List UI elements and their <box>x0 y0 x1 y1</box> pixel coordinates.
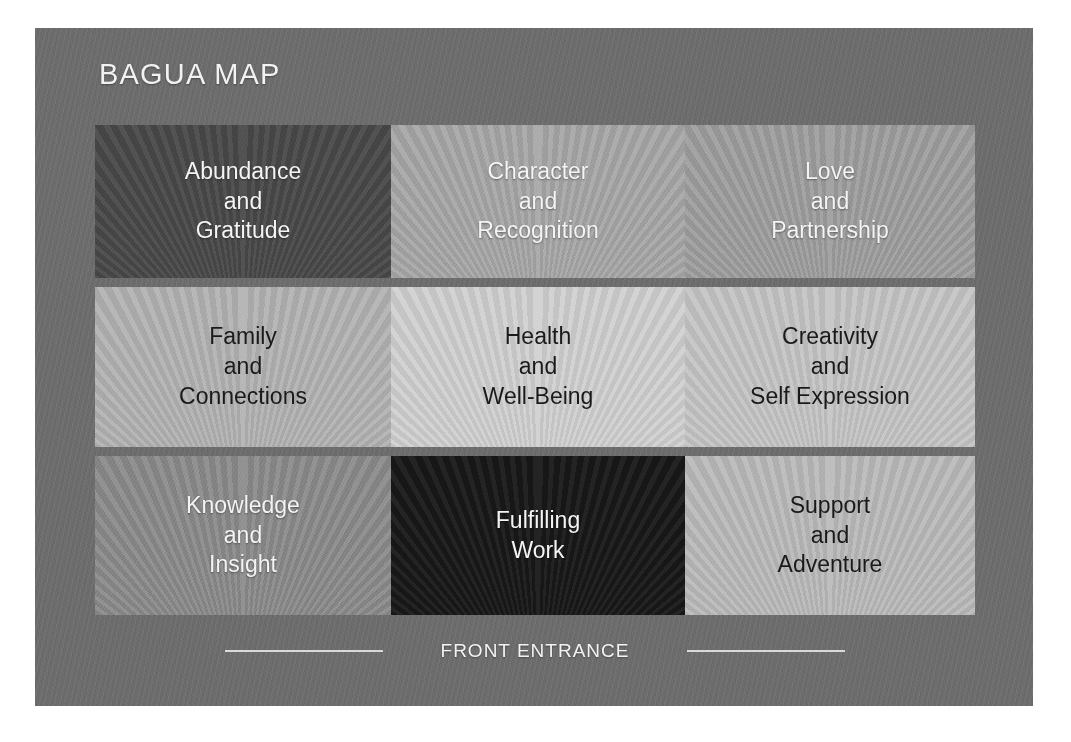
bagua-cell-line: Adventure <box>778 550 883 580</box>
bagua-cell-line: Health <box>483 322 594 352</box>
bagua-cell-line: Family <box>179 322 307 352</box>
bagua-cell-line: and <box>185 187 301 217</box>
bagua-cell-line: Insight <box>186 550 300 580</box>
bagua-cell-label: HealthandWell-Being <box>475 322 602 412</box>
bagua-cell-line: Love <box>771 157 889 187</box>
bagua-cell-line: Self Expression <box>750 382 910 412</box>
bagua-cell-line: and <box>186 521 300 551</box>
bagua-cell-label: LoveandPartnership <box>763 157 897 247</box>
bagua-cell-character-recognition[interactable]: CharacterandRecognition <box>391 125 685 278</box>
bagua-cell-line: Gratitude <box>185 216 301 246</box>
bagua-cell-fulfilling-work[interactable]: FulfillingWork <box>391 456 685 615</box>
bagua-cell-support-adventure[interactable]: SupportandAdventure <box>685 456 975 615</box>
bagua-cell-label: SupportandAdventure <box>770 491 891 581</box>
bagua-cell-line: Well-Being <box>483 382 594 412</box>
bagua-cell-line: Creativity <box>750 322 910 352</box>
bagua-cell-line: and <box>778 521 883 551</box>
bagua-cell-line: Knowledge <box>186 491 300 521</box>
bagua-cell-label: CreativityandSelf Expression <box>742 322 918 412</box>
footer-rule-right <box>687 650 845 652</box>
bagua-cell-family-connections[interactable]: FamilyandConnections <box>95 287 391 447</box>
bagua-cell-line: and <box>179 352 307 382</box>
bagua-cell-line: Recognition <box>477 216 598 246</box>
bagua-cell-line: and <box>750 352 910 382</box>
bagua-cell-label: FamilyandConnections <box>171 322 315 412</box>
bagua-cell-label: CharacterandRecognition <box>469 157 606 247</box>
bagua-cell-line: and <box>477 187 598 217</box>
bagua-cell-line: Work <box>496 536 580 566</box>
bagua-map-panel: BAGUA MAP AbundanceandGratitudeCharacter… <box>35 28 1033 706</box>
bagua-cell-label: AbundanceandGratitude <box>177 157 309 247</box>
bagua-cell-line: and <box>483 352 594 382</box>
bagua-cell-line: Character <box>477 157 598 187</box>
bagua-cell-line: and <box>771 187 889 217</box>
bagua-cell-line: Connections <box>179 382 307 412</box>
bagua-cell-creativity-self-expression[interactable]: CreativityandSelf Expression <box>685 287 975 447</box>
bagua-cell-label: FulfillingWork <box>488 506 588 566</box>
poster-page: BAGUA MAP AbundanceandGratitudeCharacter… <box>0 0 1071 742</box>
footer: FRONT ENTRANCE <box>95 628 975 674</box>
front-entrance-label: FRONT ENTRANCE <box>441 640 630 662</box>
page-title: BAGUA MAP <box>99 58 281 91</box>
bagua-cell-line: Partnership <box>771 216 889 246</box>
bagua-cell-health-wellbeing[interactable]: HealthandWell-Being <box>391 287 685 447</box>
bagua-cell-knowledge-insight[interactable]: KnowledgeandInsight <box>95 456 391 615</box>
bagua-cell-abundance-gratitude[interactable]: AbundanceandGratitude <box>95 125 391 278</box>
bagua-grid: AbundanceandGratitudeCharacterandRecogni… <box>95 125 975 610</box>
bagua-cell-line: Abundance <box>185 157 301 187</box>
bagua-cell-label: KnowledgeandInsight <box>178 491 308 581</box>
bagua-cell-line: Fulfilling <box>496 506 580 536</box>
bagua-cell-line: Support <box>778 491 883 521</box>
footer-rule-left <box>225 650 383 652</box>
bagua-cell-love-partnership[interactable]: LoveandPartnership <box>685 125 975 278</box>
